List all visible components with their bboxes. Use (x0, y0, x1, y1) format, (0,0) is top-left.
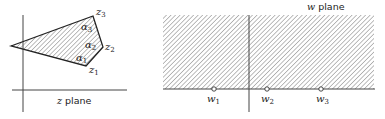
point-w1-label: w1 (207, 93, 220, 106)
point-w3 (319, 87, 323, 91)
upper-half-plane-region (163, 15, 374, 89)
w-plane-caption: wplane (307, 1, 345, 12)
point-w3-label: w3 (316, 93, 329, 106)
point-w2-label: w2 (261, 93, 274, 106)
vertex-z3-label: z3 (95, 6, 106, 19)
point-w2 (265, 87, 269, 91)
point-w1 (212, 87, 216, 91)
z-plane-panel: z3 z2 z1 α3 α2 α1 zplane (11, 6, 127, 112)
conformal-map-diagram: z3 z2 z1 α3 α2 α1 zplane w1 w2 w3 wplane (0, 0, 385, 119)
vertex-z2-label: z2 (104, 41, 115, 54)
z-plane-caption: zplane (56, 95, 92, 106)
w-plane-panel: w1 w2 w3 wplane (163, 1, 375, 112)
vertex-z1-label: z1 (88, 64, 99, 77)
